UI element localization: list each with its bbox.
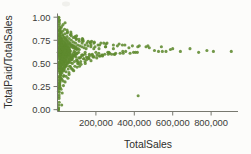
data-point <box>89 41 92 44</box>
data-point <box>161 50 164 53</box>
data-point <box>72 69 75 72</box>
data-point <box>69 61 72 64</box>
data-point <box>157 50 160 53</box>
y-axis-title: TotalPaid/TotalSales <box>3 15 14 109</box>
y-tick-label: 0.50 <box>32 58 50 69</box>
x-tick-label: 800,000 <box>194 117 228 128</box>
data-point <box>71 54 74 57</box>
data-point <box>99 42 102 45</box>
data-point <box>164 50 167 53</box>
data-point <box>61 91 64 94</box>
data-point <box>86 56 89 59</box>
data-point <box>153 49 156 52</box>
data-point <box>121 50 124 53</box>
data-point <box>148 46 151 49</box>
data-point <box>138 44 141 47</box>
data-point <box>69 30 72 33</box>
data-point <box>85 47 88 50</box>
data-point <box>93 45 96 48</box>
data-point <box>62 75 65 78</box>
data-point <box>61 57 64 60</box>
data-point <box>67 67 70 70</box>
data-point <box>90 54 93 57</box>
data-point <box>124 50 127 53</box>
data-point <box>188 47 191 50</box>
data-point <box>93 41 96 44</box>
data-point <box>137 94 140 97</box>
data-point <box>104 45 107 48</box>
data-point <box>66 31 69 34</box>
data-point <box>123 43 126 46</box>
data-point <box>119 52 122 55</box>
data-point <box>58 79 61 82</box>
data-point <box>75 37 78 40</box>
x-tick-label: 400,000 <box>117 117 151 128</box>
data-point <box>72 50 75 53</box>
plot-canvas: 0.000.250.500.751.00 200,000400,000600,0… <box>0 0 251 154</box>
data-point <box>58 26 61 29</box>
x-axis-ticks: 200,000400,000600,000800,000 <box>79 112 228 128</box>
data-point <box>79 56 82 59</box>
data-point <box>114 52 117 55</box>
data-point <box>101 54 104 57</box>
data-point <box>59 36 62 39</box>
data-point <box>179 50 182 53</box>
data-point <box>82 57 85 60</box>
data-point <box>58 29 61 32</box>
y-tick-label: 0.25 <box>32 81 50 92</box>
scatter-plot-figure: 0.000.250.500.751.00 200,000400,000600,0… <box>0 0 251 154</box>
data-point <box>131 44 134 47</box>
data-point <box>110 53 113 56</box>
data-point <box>77 51 80 54</box>
data-point <box>106 51 109 54</box>
x-tick-label: 600,000 <box>156 117 190 128</box>
data-point <box>64 49 67 52</box>
data-point <box>67 49 70 52</box>
data-point <box>60 43 63 46</box>
data-point <box>169 48 172 51</box>
data-point <box>68 65 71 68</box>
data-point <box>58 22 61 25</box>
data-point <box>205 49 208 52</box>
data-point <box>59 74 62 77</box>
data-point <box>70 34 73 37</box>
data-point <box>58 87 61 90</box>
y-tick-label: 0.75 <box>32 35 50 46</box>
y-axis-ticks: 0.000.250.500.751.00 <box>32 12 57 115</box>
data-point <box>81 54 84 57</box>
data-point <box>97 52 100 55</box>
data-point <box>70 57 73 60</box>
data-point <box>59 33 62 36</box>
data-point <box>62 84 65 87</box>
data-point <box>129 52 132 55</box>
data-points-group <box>57 16 233 112</box>
data-point <box>81 39 84 42</box>
data-point <box>66 77 69 80</box>
data-point <box>118 42 121 45</box>
data-point <box>212 50 215 53</box>
data-point <box>58 84 61 87</box>
data-point <box>112 47 115 50</box>
data-point <box>78 65 81 68</box>
data-point <box>68 73 71 76</box>
data-point <box>197 51 200 54</box>
data-point <box>58 91 61 94</box>
data-point <box>66 29 69 32</box>
data-point <box>132 51 135 54</box>
data-point <box>105 42 108 45</box>
data-point <box>74 55 77 58</box>
data-point <box>96 43 99 46</box>
data-point <box>230 50 233 53</box>
y-tick-label: 0.00 <box>32 104 50 115</box>
data-point <box>84 62 87 65</box>
x-tick-label: 200,000 <box>79 117 113 128</box>
data-point <box>77 38 80 41</box>
data-point <box>58 101 61 104</box>
data-point <box>160 45 163 48</box>
data-point <box>64 21 67 24</box>
data-point <box>59 68 62 71</box>
data-point <box>89 59 92 62</box>
data-point <box>127 46 130 49</box>
data-point <box>136 51 139 54</box>
data-point <box>60 103 63 106</box>
